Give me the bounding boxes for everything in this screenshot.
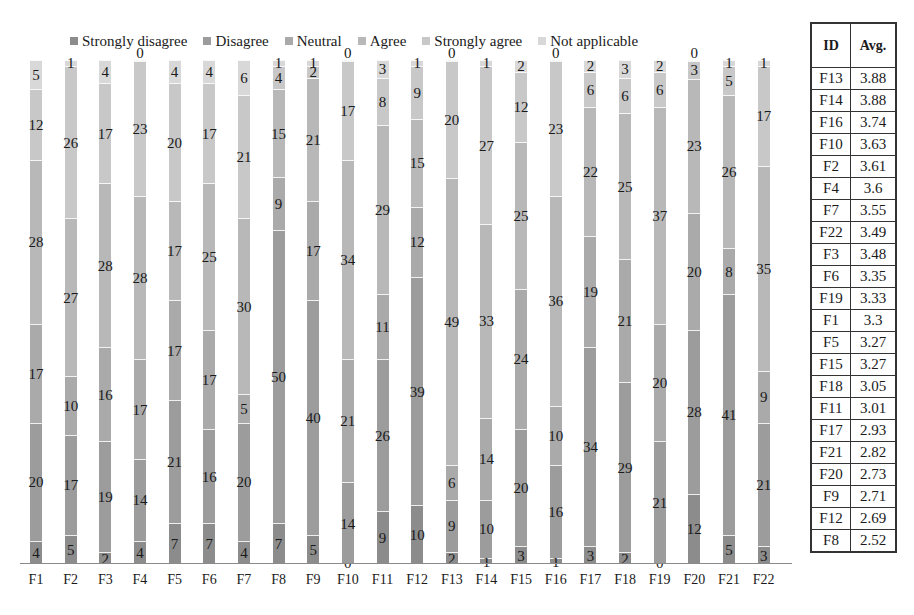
bar-segment: 25 [203, 183, 215, 330]
table-row: F153.27 [811, 354, 896, 376]
bar-segment: 4 [30, 541, 42, 564]
bar-segment: 6 [584, 72, 596, 107]
bar-segment: 41 [723, 294, 735, 534]
bar-segment: 3 [584, 546, 596, 564]
segment-value-label: 3 [760, 548, 768, 563]
stacked-bar: 540172121 [307, 60, 319, 564]
segment-value-label: 6 [656, 82, 664, 97]
segment-value-label: 3 [379, 62, 387, 77]
table-row: F202.73 [811, 464, 896, 486]
bar-segment: 1 [411, 60, 423, 66]
table-row: F212.82 [811, 442, 896, 464]
segment-value-label: 23 [687, 139, 702, 154]
segment-value-label: 1 [413, 56, 421, 71]
stacked-bar: 926112983 [377, 60, 389, 564]
cell-avg: 3.27 [851, 332, 897, 354]
table-row: F53.27 [811, 332, 896, 354]
segment-value-label: 29 [375, 202, 390, 217]
table-row: F172.93 [811, 420, 896, 442]
bar-segment: 28 [99, 183, 111, 347]
table-row: F43.6 [811, 178, 896, 200]
legend-label: Not applicable [550, 33, 638, 50]
segment-value-label: 21 [167, 454, 182, 469]
x-tick-label: F13 [441, 572, 463, 588]
segment-value-label: 20 [687, 265, 702, 280]
table-row: F103.63 [811, 134, 896, 156]
segment-value-label: 29 [618, 460, 633, 475]
segment-value-label: 7 [275, 536, 283, 551]
segment-value-label: 11 [375, 320, 389, 335]
segment-value-label: 5 [725, 542, 733, 557]
bar-segment: 9 [758, 371, 770, 424]
cell-id: F8 [811, 530, 851, 553]
segment-value-label: 1 [760, 56, 768, 71]
segment-value-label: 10 [410, 528, 425, 543]
segment-value-label: 16 [202, 469, 217, 484]
table-row: F73.55 [811, 200, 896, 222]
cell-avg: 3.05 [851, 376, 897, 398]
stacked-bar: 3202425122 [515, 60, 527, 564]
bar-segment: 40 [307, 300, 319, 534]
bar-segment: 10 [411, 505, 423, 564]
bar-segment: 17 [342, 61, 354, 160]
bar-segment: 20 [688, 213, 700, 330]
segment-value-label: 12 [687, 522, 702, 537]
segment-value-label: 2 [517, 59, 525, 74]
x-tick-label: F8 [271, 572, 286, 588]
bar-segment: 25 [619, 113, 631, 260]
legend-swatch-icon [203, 37, 211, 45]
bar-segment: 16 [550, 465, 562, 559]
cell-avg: 3.61 [851, 156, 897, 178]
bar-segment: 21 [169, 400, 181, 523]
segment-value-label: 10 [479, 522, 494, 537]
bar-segment: 5 [65, 535, 77, 564]
bar-segment: 16 [99, 347, 111, 441]
segment-value-label: 8 [379, 94, 387, 109]
stacked-bar-plot-area: 4201728125517102726121916281744141728230… [20, 60, 790, 564]
segment-value-label: 23 [132, 121, 147, 136]
stacked-bar: 1101433271 [480, 60, 492, 564]
segment-value-label: 17 [306, 243, 321, 258]
segment-value-label: 3 [587, 548, 595, 563]
segment-value-label: 9 [448, 519, 456, 534]
segment-value-label: 17 [132, 402, 147, 417]
cell-id: F7 [811, 200, 851, 222]
cell-avg: 3.55 [851, 200, 897, 222]
segment-value-label: 21 [340, 414, 355, 429]
bar-segment: 28 [30, 160, 42, 324]
legend-item: Disagree [203, 33, 268, 50]
segment-value-label: 50 [271, 369, 286, 384]
bar-segment: 17 [134, 359, 146, 458]
segment-value-label: 20 [652, 375, 667, 390]
bar-segment: 9 [377, 511, 389, 564]
bar-segment: 20 [169, 83, 181, 200]
table-row: F13.3 [811, 310, 896, 332]
table-row: F183.05 [811, 376, 896, 398]
bar-segment: 17 [30, 324, 42, 424]
segment-value-label: 30 [236, 299, 251, 314]
segment-value-label: 35 [756, 261, 771, 276]
cell-id: F1 [811, 310, 851, 332]
segment-value-label: 3 [621, 62, 629, 77]
segment-value-label: 4 [171, 65, 179, 80]
segment-value-label: 37 [652, 208, 667, 223]
bar-segment: 9 [446, 500, 458, 553]
segment-value-label: 6 [240, 71, 248, 86]
bar-segment: 34 [584, 347, 596, 546]
segment-value-label: 36 [548, 294, 563, 309]
segment-value-label: 4 [240, 545, 248, 560]
bar-segment: 16 [203, 429, 215, 523]
cell-id: F2 [811, 156, 851, 178]
segment-value-label: 34 [583, 440, 598, 455]
bar-segment: 23 [550, 61, 562, 196]
segment-value-label: 5 [240, 402, 248, 417]
cell-avg: 3.6 [851, 178, 897, 200]
bar-segment: 6 [619, 78, 631, 113]
cell-id: F19 [811, 288, 851, 310]
segment-value-label: 22 [583, 164, 598, 179]
segment-value-label: 3 [691, 63, 699, 78]
stacked-bar: 021203762 [654, 60, 666, 564]
segment-value-label: 6 [621, 88, 629, 103]
segment-value-label: 26 [722, 164, 737, 179]
cell-avg: 2.71 [851, 486, 897, 508]
